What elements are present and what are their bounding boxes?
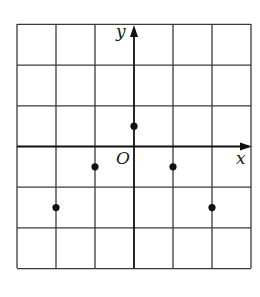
data-point bbox=[208, 204, 215, 211]
axes bbox=[17, 25, 252, 268]
coordinate-grid-diagram: y x O bbox=[0, 0, 260, 297]
x-axis-label: x bbox=[236, 148, 246, 168]
y-axis-label: y bbox=[115, 21, 126, 41]
data-point bbox=[169, 163, 176, 170]
data-point bbox=[130, 123, 137, 130]
data-point bbox=[91, 163, 98, 170]
data-point bbox=[52, 204, 59, 211]
y-axis-arrow-icon bbox=[130, 25, 138, 37]
origin-label: O bbox=[116, 148, 130, 168]
